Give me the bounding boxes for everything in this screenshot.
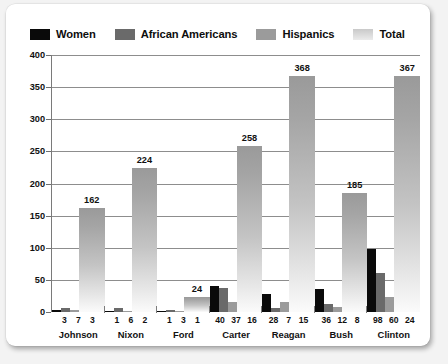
legend-item-hispanics[interactable]: Hispanics [256, 26, 334, 42]
x-category-label: Johnson [52, 328, 105, 342]
bar-africans-ford[interactable] [166, 310, 175, 312]
bar-value-label-total: 258 [242, 133, 257, 143]
bar-africans-bush[interactable] [324, 304, 333, 312]
x-value-label: 8 [350, 314, 364, 326]
x-group-values: 373 [52, 314, 105, 327]
bar-hispanics-reagan[interactable] [280, 302, 289, 312]
x-value-label: 6 [124, 314, 138, 326]
bar-total-carter[interactable]: 258 [237, 146, 263, 312]
y-tick-mark-250 [46, 151, 51, 152]
bar-value-label-total: 224 [137, 155, 152, 165]
x-value-label: 7 [71, 314, 85, 326]
bars: 367 [367, 55, 420, 312]
x-value-label: 60 [386, 314, 402, 326]
bar-hispanics-johnson[interactable] [70, 310, 79, 312]
y-tick-label: 150 [30, 211, 45, 221]
bar-value-label-total: 24 [192, 284, 202, 294]
x-value-label: 7 [282, 314, 296, 326]
bar-group-carter: 258 [210, 55, 263, 312]
bars: 24 [157, 55, 210, 312]
y-tick-label: 0 [40, 307, 45, 317]
x-value-label: 24 [402, 314, 418, 326]
x-value-label: 3 [176, 314, 190, 326]
bar-total-johnson[interactable]: 162 [79, 208, 105, 312]
x-group-values: 36128 [315, 314, 368, 327]
x-value-label: 2 [138, 314, 152, 326]
bar-value-label-total: 185 [347, 180, 362, 190]
x-value-label: 98 [370, 314, 386, 326]
bar-women-nixon[interactable] [105, 311, 114, 312]
bars: 185 [315, 55, 368, 312]
legend-item-africans[interactable]: African Americans [115, 26, 238, 42]
legend-item-total[interactable]: Total [353, 26, 404, 42]
x-value-label: 40 [212, 314, 228, 326]
y-tick-mark-100 [46, 248, 51, 249]
y-tick-label: 100 [30, 243, 45, 253]
bar-hispanics-ford[interactable] [175, 311, 184, 312]
legend-swatch-total-icon [353, 29, 373, 40]
bar-value-label-total: 367 [400, 63, 415, 73]
bar-total-bush[interactable]: 185 [342, 193, 368, 312]
legend-swatch-women-icon [30, 29, 50, 40]
legend-item-women[interactable]: Women [30, 26, 96, 42]
bar-value-label-total: 368 [294, 63, 309, 73]
y-tick-mark-400 [46, 55, 51, 56]
legend-swatch-hispanics-icon [256, 29, 276, 40]
bars: 162 [52, 55, 105, 312]
x-group-nixon: 162Nixon [105, 314, 158, 348]
bar-value-label-total: 162 [84, 195, 99, 205]
bar-total-clinton[interactable]: 367 [394, 76, 420, 312]
x-group-values: 162 [105, 314, 158, 327]
bar-hispanics-nixon[interactable] [123, 311, 132, 312]
bar-total-nixon[interactable]: 224 [132, 168, 158, 312]
x-value-label: 12 [334, 314, 350, 326]
x-group-ford: 131Ford [157, 314, 210, 348]
bar-women-bush[interactable] [315, 289, 324, 312]
bar-africans-clinton[interactable] [376, 273, 385, 312]
bar-women-johnson[interactable] [52, 310, 61, 312]
bar-group-nixon: 224 [105, 55, 158, 312]
bar-hispanics-clinton[interactable] [385, 297, 394, 312]
x-value-label: 1 [110, 314, 124, 326]
bars: 368 [262, 55, 315, 312]
x-group-reagan: 28715Reagan [262, 314, 315, 348]
x-value-label: 3 [57, 314, 71, 326]
x-axis-labels: 373Johnson162Nixon131Ford403716Carter287… [52, 314, 420, 348]
screenshot-root: WomenAfrican AmericansHispanicsTotal 400… [0, 0, 448, 364]
y-tick-label: 300 [30, 114, 45, 124]
bar-women-reagan[interactable] [262, 294, 271, 312]
bar-africans-nixon[interactable] [114, 308, 123, 312]
x-group-johnson: 373Johnson [52, 314, 105, 348]
bar-total-reagan[interactable]: 368 [289, 76, 315, 312]
plot-area: 400350300250200150100500 162224242583681… [52, 55, 420, 312]
bar-africans-johnson[interactable] [61, 308, 70, 312]
bar-africans-carter[interactable] [219, 288, 228, 312]
bar-hispanics-carter[interactable] [228, 302, 237, 312]
x-group-clinton: 986024Clinton [367, 314, 420, 348]
legend-label: Women [56, 29, 96, 40]
y-tick-label: 400 [30, 50, 45, 60]
x-category-label: Carter [210, 328, 263, 342]
bar-group-johnson: 162 [52, 55, 105, 312]
y-tick-mark-300 [46, 119, 51, 120]
x-value-label: 37 [228, 314, 244, 326]
bar-women-ford[interactable] [157, 311, 166, 312]
y-tick-label: 250 [30, 146, 45, 156]
y-tick-label: 200 [30, 179, 45, 189]
x-value-label: 1 [190, 314, 204, 326]
bar-women-carter[interactable] [210, 286, 219, 312]
y-tick-mark-50 [46, 280, 51, 281]
bar-group-reagan: 368 [262, 55, 315, 312]
bar-africans-reagan[interactable] [271, 308, 280, 312]
x-group-bush: 36128Bush [315, 314, 368, 348]
x-value-label: 15 [296, 314, 312, 326]
x-category-label: Bush [315, 328, 368, 342]
x-value-label: 16 [244, 314, 260, 326]
bar-hispanics-bush[interactable] [333, 307, 342, 312]
bar-women-clinton[interactable] [367, 249, 376, 312]
bar-groups: 16222424258368185367 [52, 55, 420, 312]
x-value-label: 36 [318, 314, 334, 326]
legend-label: African Americans [141, 29, 238, 40]
bar-total-ford[interactable]: 24 [184, 297, 210, 312]
legend-swatch-africans-icon [115, 29, 135, 40]
